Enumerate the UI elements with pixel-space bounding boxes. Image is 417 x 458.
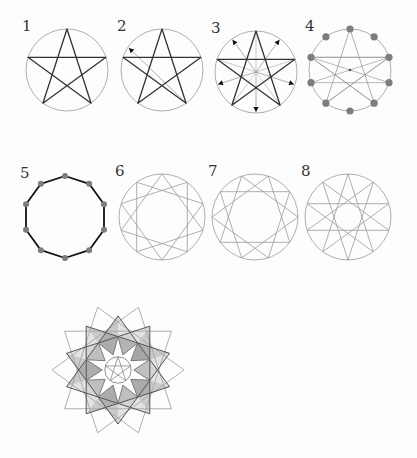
vertex-dot bbox=[370, 100, 377, 107]
pentagram bbox=[28, 29, 106, 103]
arrowhead-icon bbox=[253, 107, 258, 112]
vertex-dot bbox=[385, 79, 392, 86]
arrowhead-icon bbox=[218, 80, 224, 85]
panel-label: 7 bbox=[208, 162, 218, 180]
panel-6: 6 bbox=[115, 162, 205, 260]
arrowhead-icon bbox=[232, 40, 237, 46]
geometry-figure: 12345678 bbox=[0, 0, 417, 458]
vertex-dot bbox=[322, 33, 329, 40]
panel-label: 5 bbox=[20, 164, 30, 182]
vertex-dot bbox=[62, 173, 68, 179]
panel-grid: 12345678 bbox=[20, 17, 393, 261]
arrowhead-icon bbox=[274, 40, 279, 46]
panel-label: 2 bbox=[117, 17, 127, 35]
decagram-rosette bbox=[52, 307, 184, 433]
vertex-dot bbox=[86, 181, 92, 187]
panel-label: 8 bbox=[301, 162, 311, 180]
circumcircle bbox=[119, 174, 205, 260]
vertex-dot bbox=[86, 247, 92, 253]
panel-3: 3 bbox=[211, 19, 297, 113]
pentagram bbox=[123, 29, 201, 103]
vertex-dot bbox=[23, 227, 29, 233]
circumcircle bbox=[212, 174, 298, 260]
panel-4: 4 bbox=[305, 17, 393, 115]
panel-1: 1 bbox=[22, 17, 108, 111]
panel-5: 5 bbox=[20, 164, 107, 261]
spoke-line bbox=[256, 59, 295, 72]
vertex-dot bbox=[307, 79, 314, 86]
circumcircle bbox=[121, 29, 203, 111]
panel-7: 7 bbox=[208, 162, 298, 260]
vertex-dot bbox=[322, 100, 329, 107]
panel-label: 4 bbox=[305, 17, 315, 35]
vertex-dot bbox=[307, 54, 314, 61]
vertex-dot bbox=[62, 255, 68, 261]
vertex-dot bbox=[38, 247, 44, 253]
vertex-dot bbox=[23, 201, 29, 207]
circumcircle bbox=[24, 176, 106, 258]
spoke-line bbox=[217, 59, 256, 72]
decagon bbox=[26, 176, 104, 258]
vertex-dot bbox=[101, 227, 107, 233]
panel-2: 2 bbox=[117, 17, 203, 111]
panel-label: 3 bbox=[211, 19, 221, 37]
decagram bbox=[307, 174, 389, 252]
spoke-line bbox=[256, 72, 280, 105]
circumcircle bbox=[305, 174, 391, 260]
spoke-line bbox=[232, 72, 256, 105]
decagram bbox=[212, 176, 298, 258]
vertex-dot bbox=[346, 25, 353, 32]
vertex-dot bbox=[38, 181, 44, 187]
decagram bbox=[121, 174, 203, 260]
vertex-dot bbox=[346, 107, 353, 114]
arrowhead-icon bbox=[288, 80, 294, 85]
vertex-dot bbox=[370, 33, 377, 40]
diagram-canvas: 12345678 1 2 3 4 5 6 7 8 bbox=[0, 0, 417, 458]
vertex-dot bbox=[385, 54, 392, 61]
panel-label: 1 bbox=[22, 17, 32, 35]
center-dot bbox=[349, 69, 352, 72]
chord-line bbox=[311, 57, 374, 103]
panel-8: 8 bbox=[301, 162, 391, 260]
chord-line bbox=[326, 57, 389, 103]
circumcircle bbox=[26, 29, 108, 111]
decagram bbox=[307, 182, 389, 260]
vertex-dot bbox=[101, 201, 107, 207]
panel-label: 6 bbox=[115, 162, 125, 180]
